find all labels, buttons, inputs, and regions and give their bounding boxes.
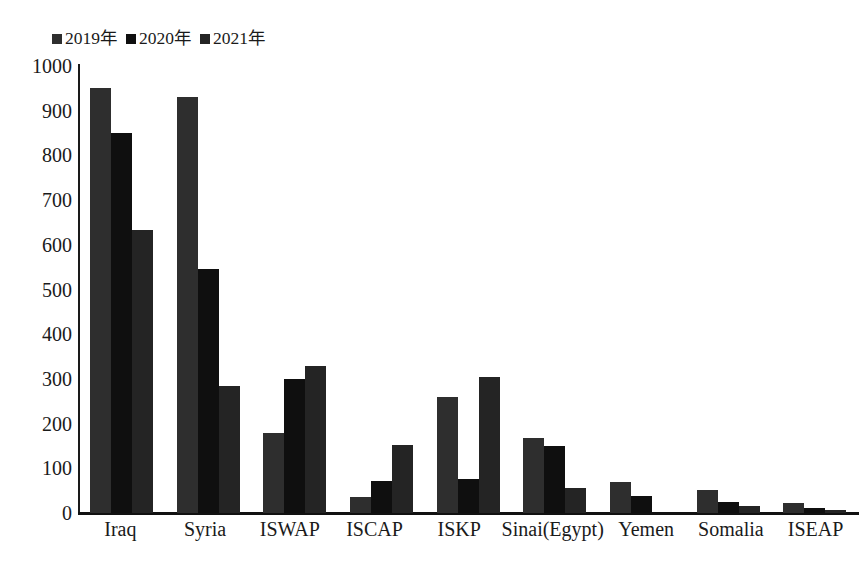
bar bbox=[804, 508, 825, 513]
y-tick-label: 700 bbox=[8, 190, 78, 210]
bar bbox=[263, 433, 284, 513]
bar bbox=[697, 490, 718, 513]
y-tick-label: 300 bbox=[8, 369, 78, 389]
bar-cluster bbox=[511, 66, 598, 513]
x-tick-label: ISCAP bbox=[332, 518, 417, 558]
bar-cluster bbox=[78, 66, 165, 513]
legend-swatch-2019 bbox=[52, 34, 62, 44]
bar bbox=[305, 366, 326, 513]
bar bbox=[610, 482, 631, 513]
x-tick-label: Yemen bbox=[604, 518, 689, 558]
bar-group bbox=[78, 66, 165, 513]
y-tick-label: 1000 bbox=[8, 56, 78, 76]
bar-groups bbox=[78, 66, 858, 513]
bar bbox=[392, 445, 413, 513]
bar bbox=[350, 497, 371, 513]
bar-group bbox=[511, 66, 598, 513]
bar bbox=[111, 133, 132, 513]
bar-group bbox=[425, 66, 512, 513]
bar-group bbox=[251, 66, 338, 513]
bar-cluster bbox=[165, 66, 252, 513]
x-tick-label: Sinai(Egypt) bbox=[502, 518, 604, 558]
bar bbox=[458, 479, 479, 513]
bar-group bbox=[771, 66, 858, 513]
legend-swatch-2021 bbox=[200, 34, 210, 44]
y-axis-ticks: 10009008007006005004003002001000 bbox=[0, 66, 78, 513]
bar bbox=[437, 397, 458, 513]
x-tick-label: Iraq bbox=[78, 518, 163, 558]
bar-group bbox=[338, 66, 425, 513]
bar bbox=[544, 446, 565, 513]
bar bbox=[479, 377, 500, 513]
bar bbox=[284, 379, 305, 513]
y-tick-label: 900 bbox=[8, 101, 78, 121]
bar bbox=[219, 386, 240, 513]
bar-group bbox=[598, 66, 685, 513]
bar bbox=[739, 506, 760, 513]
legend-entry-2020: 2020年 bbox=[126, 30, 191, 48]
bar-cluster bbox=[251, 66, 338, 513]
bar bbox=[783, 503, 804, 513]
y-tick-label: 100 bbox=[8, 458, 78, 478]
bar-cluster bbox=[685, 66, 772, 513]
y-tick-label: 600 bbox=[8, 235, 78, 255]
legend-label-2021: 2021年 bbox=[213, 30, 265, 48]
bar bbox=[198, 269, 219, 513]
plot-area bbox=[78, 66, 858, 513]
bar bbox=[132, 230, 153, 513]
bar bbox=[565, 488, 586, 513]
legend-label-2019: 2019年 bbox=[65, 30, 117, 48]
legend-swatch-2020 bbox=[126, 34, 136, 44]
bar bbox=[631, 496, 652, 513]
bar bbox=[825, 510, 846, 513]
x-tick-label: ISWAP bbox=[247, 518, 332, 558]
x-tick-label: ISEAP bbox=[773, 518, 858, 558]
bar-cluster bbox=[598, 66, 685, 513]
chart-legend: 2019年 2020年 2021年 bbox=[52, 26, 265, 52]
legend-entry-2019: 2019年 bbox=[52, 30, 117, 48]
y-tick-label: 0 bbox=[8, 503, 78, 523]
x-axis-labels: IraqSyriaISWAPISCAPISKPSinai(Egypt)Yemen… bbox=[78, 518, 858, 558]
bar-cluster bbox=[338, 66, 425, 513]
bar bbox=[371, 481, 392, 513]
y-tick-label: 500 bbox=[8, 280, 78, 300]
x-tick-label: ISKP bbox=[417, 518, 502, 558]
bar-cluster bbox=[771, 66, 858, 513]
bar-group bbox=[165, 66, 252, 513]
bar-chart: 2019年 2020年 2021年 1000900800700600500400… bbox=[0, 0, 867, 575]
bar bbox=[523, 438, 544, 513]
x-tick-label: Syria bbox=[163, 518, 248, 558]
bar-group bbox=[685, 66, 772, 513]
y-tick-label: 400 bbox=[8, 324, 78, 344]
bar bbox=[718, 502, 739, 513]
bar bbox=[177, 97, 198, 513]
legend-label-2020: 2020年 bbox=[139, 30, 191, 48]
x-tick-label: Somalia bbox=[689, 518, 774, 558]
bar-cluster bbox=[425, 66, 512, 513]
y-tick-label: 800 bbox=[8, 145, 78, 165]
y-tick-label: 200 bbox=[8, 414, 78, 434]
legend-entry-2021: 2021年 bbox=[200, 30, 265, 48]
bar bbox=[90, 88, 111, 513]
